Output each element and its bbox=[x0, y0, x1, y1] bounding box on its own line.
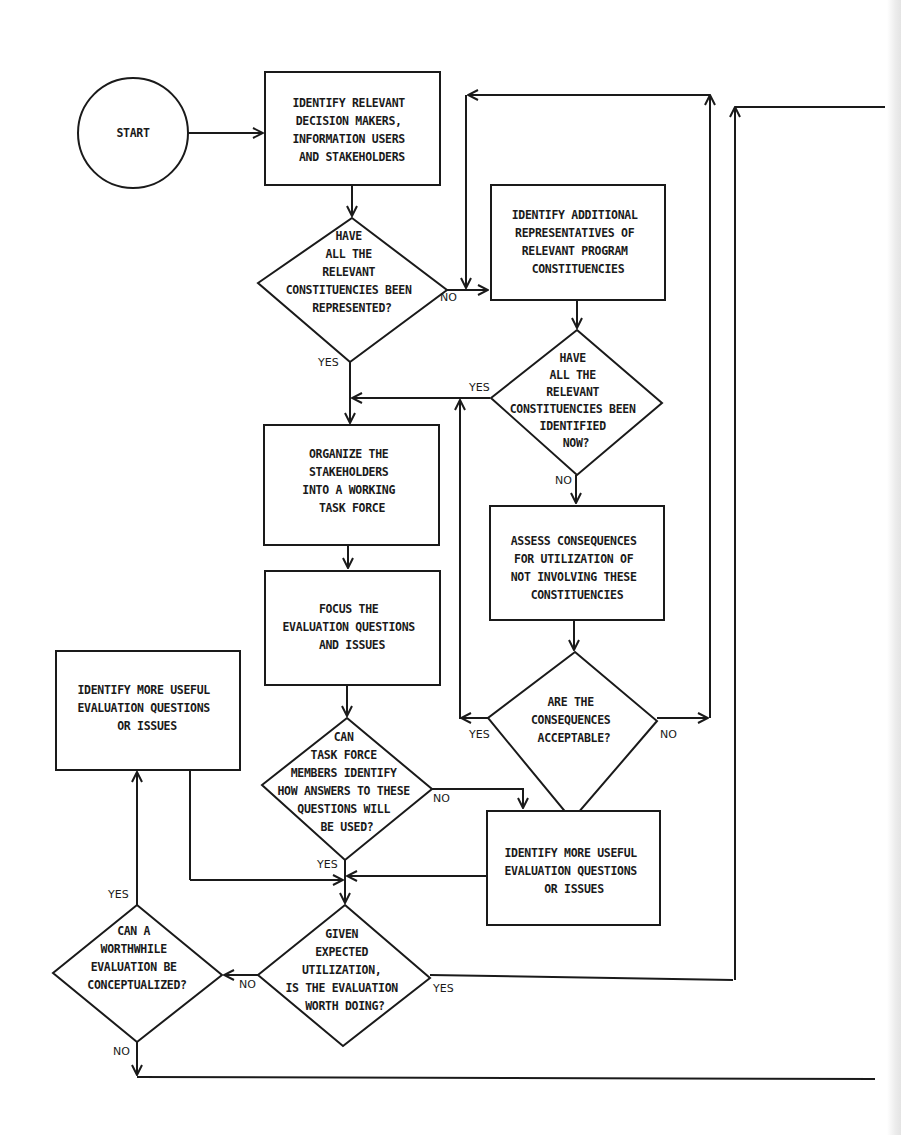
organize-task-force-box: ORGANIZE THE STAKEHOLDERS INTO A WORKING… bbox=[264, 425, 439, 545]
label-identified-yes: YES bbox=[468, 381, 490, 394]
start-label: START bbox=[116, 126, 149, 140]
focus-questions-box: FOCUS THE EVALUATION QUESTIONS AND ISSUE… bbox=[265, 571, 440, 685]
label-acceptable-no: NO bbox=[660, 728, 677, 741]
members-identify-use-decision: CAN TASK FORCE MEMBERS IDENTIFY HOW ANSW… bbox=[262, 718, 432, 860]
label-conceptualize-yes: YES bbox=[107, 888, 129, 901]
label-members-no: NO bbox=[433, 792, 450, 805]
assess-consequences-box: ASSESS CONSEQUENCES FOR UTILIZATION OF N… bbox=[490, 506, 664, 620]
start-node: START bbox=[78, 78, 188, 188]
more-useful-questions-right-box: IDENTIFY MORE USEFUL EVALUATION QUESTION… bbox=[487, 811, 660, 925]
identify-additional-box: IDENTIFY ADDITIONAL REPRESENTATIVES OF R… bbox=[491, 185, 665, 300]
can-conceptualize-decision: CAN A WORTHWHILE EVALUATION BE CONCEPTUA… bbox=[53, 905, 222, 1042]
edge-acceptable-yes bbox=[460, 400, 488, 718]
label-worth-yes: YES bbox=[432, 982, 454, 995]
worth-doing-decision: GIVEN EXPECTED UTILIZATION, IS THE EVALU… bbox=[258, 905, 430, 1046]
consequences-acceptable-decision: ARE THE CONSEQUENCES ACCEPTABLE? bbox=[488, 652, 657, 820]
label-represented-no: NO bbox=[440, 291, 457, 304]
flowchart-canvas: START IDENTIFY RELEVANT DECISION MAKERS,… bbox=[0, 0, 901, 1135]
label-identified-no: NO bbox=[555, 474, 572, 487]
edge-conceptualize-no-offpage bbox=[137, 1077, 875, 1079]
all-identified-decision: HAVE ALL THE RELEVANT CONSTITUENCIES BEE… bbox=[491, 330, 662, 475]
edge-worth-yes bbox=[430, 975, 733, 980]
label-represented-yes: YES bbox=[317, 356, 339, 369]
label-worth-no: NO bbox=[239, 978, 256, 991]
label-members-yes: YES bbox=[316, 858, 338, 871]
label-acceptable-yes: YES bbox=[468, 728, 490, 741]
all-represented-decision: HAVE ALL THE RELEVANT CONSTITUENCIES BEE… bbox=[258, 218, 447, 362]
label-conceptualize-no: NO bbox=[113, 1045, 130, 1058]
more-useful-questions-left-box: IDENTIFY MORE USEFUL EVALUATION QUESTION… bbox=[56, 651, 240, 770]
identify-stakeholders-box: IDENTIFY RELEVANT DECISION MAKERS, INFOR… bbox=[265, 72, 440, 185]
